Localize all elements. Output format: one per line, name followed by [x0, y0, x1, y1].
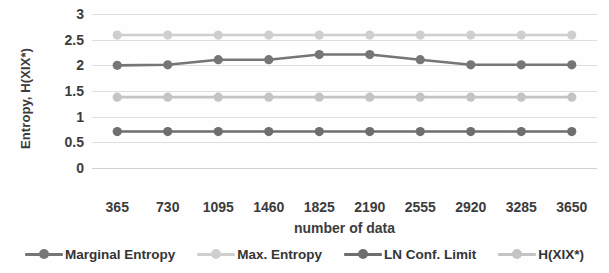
data-point-marker: [214, 55, 223, 64]
data-point-marker: [365, 30, 374, 39]
x-axis-tick-label: 2190: [354, 199, 385, 215]
plot-area: [92, 0, 597, 196]
data-point-marker: [517, 60, 526, 69]
data-point-marker: [517, 30, 526, 39]
data-point-marker: [264, 127, 273, 136]
data-point-marker: [163, 93, 172, 102]
data-point-marker: [315, 50, 324, 59]
y-axis-tick-labels: 00.511.522.53: [40, 0, 88, 196]
data-point-marker: [517, 127, 526, 136]
y-axis-tick-label: 3: [76, 6, 84, 22]
data-point-marker: [264, 30, 273, 39]
legend-item-label: H(XIX*): [538, 247, 584, 262]
legend-swatch-icon: [197, 247, 235, 261]
data-point-marker: [214, 93, 223, 102]
data-point-marker: [416, 30, 425, 39]
legend-item[interactable]: Marginal Entropy: [25, 247, 175, 262]
entropy-line-chart: Entropy, H(XIX*) 00.511.522.53 365730109…: [0, 0, 609, 273]
data-point-marker: [113, 30, 122, 39]
data-point-marker: [315, 127, 324, 136]
x-axis-tick-label: 3650: [556, 199, 587, 215]
data-point-marker: [214, 127, 223, 136]
data-point-marker: [264, 55, 273, 64]
y-axis-tick-label: 0.5: [65, 134, 84, 150]
series-group: [113, 50, 577, 70]
data-point-marker: [315, 93, 324, 102]
legend-item-label: Max. Entropy: [237, 247, 322, 262]
x-axis-tick-label: 365: [106, 199, 129, 215]
legend-swatch-icon: [25, 247, 63, 261]
legend-marker-icon: [39, 249, 49, 259]
data-point-marker: [466, 127, 475, 136]
legend-swatch-icon: [498, 247, 536, 261]
data-point-marker: [113, 127, 122, 136]
y-axis-tick-label: 1.5: [65, 83, 84, 99]
series-group: [113, 30, 577, 39]
data-point-marker: [567, 127, 576, 136]
data-point-marker: [517, 93, 526, 102]
x-axis-tick-label: 1460: [253, 199, 284, 215]
x-axis-tick-labels: 36573010951460182521902555292032853650: [92, 196, 597, 222]
data-point-marker: [567, 60, 576, 69]
data-point-marker: [466, 30, 475, 39]
data-point-marker: [365, 93, 374, 102]
series-group: [113, 93, 577, 102]
legend-item-label: Marginal Entropy: [65, 247, 175, 262]
series-group: [113, 127, 577, 136]
legend-item-label: LN Conf. Limit: [384, 247, 476, 262]
legend-swatch-icon: [344, 247, 382, 261]
legend-item[interactable]: H(XIX*): [498, 247, 584, 262]
x-axis-tick-label: 1095: [203, 199, 234, 215]
data-point-marker: [365, 127, 374, 136]
y-axis-tick-label: 2: [76, 57, 84, 73]
x-axis-tick-label: 1825: [304, 199, 335, 215]
data-point-marker: [466, 60, 475, 69]
data-point-marker: [466, 93, 475, 102]
series-line: [117, 55, 572, 66]
data-point-marker: [365, 50, 374, 59]
data-point-marker: [567, 30, 576, 39]
x-axis-tick-label: 3285: [506, 199, 537, 215]
y-axis-title-label: Entropy, H(XIX*): [19, 47, 34, 148]
data-point-marker: [214, 30, 223, 39]
data-point-marker: [113, 93, 122, 102]
legend-marker-icon: [358, 249, 368, 259]
x-axis-tick-label: 730: [156, 199, 179, 215]
chart-legend: Marginal EntropyMax. EntropyLN Conf. Lim…: [0, 240, 609, 268]
y-axis-title: Entropy, H(XIX*): [14, 0, 38, 196]
data-point-marker: [315, 30, 324, 39]
y-axis-tick-label: 0: [76, 160, 84, 176]
x-axis-tick-label: 2555: [405, 199, 436, 215]
data-point-marker: [264, 93, 273, 102]
data-point-marker: [416, 127, 425, 136]
series-canvas: [92, 0, 597, 196]
data-point-marker: [416, 55, 425, 64]
data-point-marker: [163, 60, 172, 69]
x-axis-tick-label: 2920: [455, 199, 486, 215]
data-point-marker: [567, 93, 576, 102]
x-axis-title: number of data: [92, 220, 597, 236]
data-point-marker: [416, 93, 425, 102]
y-axis-tick-label: 2.5: [65, 32, 84, 48]
legend-item[interactable]: LN Conf. Limit: [344, 247, 476, 262]
data-point-marker: [163, 30, 172, 39]
data-point-marker: [163, 127, 172, 136]
y-axis-tick-label: 1: [76, 109, 84, 125]
legend-marker-icon: [211, 249, 221, 259]
legend-marker-icon: [512, 249, 522, 259]
data-point-marker: [113, 61, 122, 70]
legend-item[interactable]: Max. Entropy: [197, 247, 322, 262]
